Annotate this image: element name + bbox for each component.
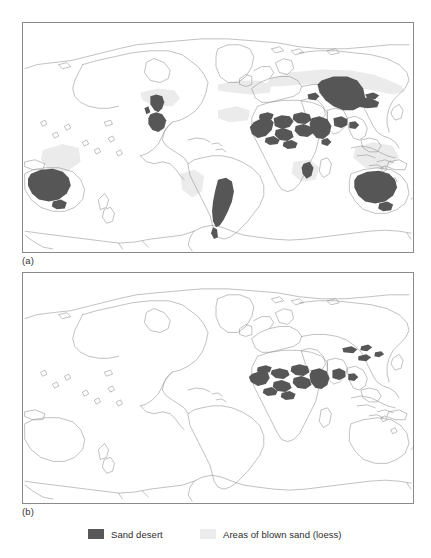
panel-label-a: (a) [22, 255, 34, 266]
coastline-layer-b [25, 289, 413, 501]
dark-gray-swatch-icon [88, 529, 104, 539]
legend-label-sand-desert: Sand desert [111, 529, 163, 540]
legend-entry-blown-sand: Areas of blown sand (loess) [200, 526, 342, 542]
panel-label-b: (b) [22, 506, 34, 517]
map-panel-a [22, 22, 414, 253]
figure-root: (a) [0, 0, 431, 558]
sand-desert-layer-a [28, 77, 397, 240]
light-gray-swatch-icon [200, 529, 216, 539]
legend: Sand desert Areas of blown sand (loess) [0, 526, 431, 546]
legend-label-blown-sand: Areas of blown sand (loess) [223, 529, 342, 540]
map-panel-b [22, 272, 414, 504]
world-map-a [23, 23, 413, 252]
world-map-b [23, 273, 413, 503]
legend-entry-sand-desert: Sand desert [88, 526, 163, 542]
